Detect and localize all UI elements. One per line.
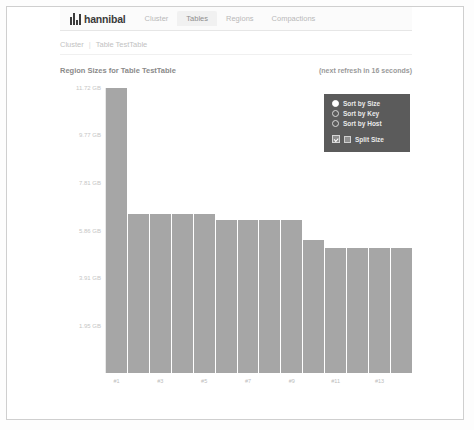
y-axis-tick-label: 7.81 GB <box>79 180 101 186</box>
sort-option-host[interactable]: Sort by Host <box>332 120 403 127</box>
bar[interactable] <box>325 248 346 373</box>
bar[interactable] <box>281 220 302 373</box>
bar[interactable] <box>369 248 390 373</box>
x-axis-tick-label <box>347 374 368 390</box>
chart-header: Region Sizes for Table TestTable (next r… <box>60 66 412 75</box>
nav-items: Cluster Tables Regions Compactions <box>136 7 325 30</box>
bar[interactable] <box>259 220 280 373</box>
bar[interactable] <box>194 214 215 373</box>
x-axis-tick-label <box>303 374 324 390</box>
brand[interactable]: hannibal <box>70 13 126 25</box>
radio-icon-sort-by-host[interactable] <box>332 120 339 127</box>
sort-option-host-label: Sort by Host <box>343 120 382 127</box>
bar[interactable] <box>106 88 127 373</box>
x-axis-tick-label: #3 <box>150 374 171 390</box>
bar[interactable] <box>128 214 149 373</box>
breadcrumb-separator: | <box>89 40 91 49</box>
top-navbar: hannibal Cluster Tables Regions Compacti… <box>60 7 412 31</box>
bar[interactable] <box>172 214 193 373</box>
chart-controls-legend: Sort by Size Sort by Key Sort by Host Sp… <box>324 94 410 152</box>
radio-icon-sort-by-size[interactable] <box>332 100 339 107</box>
nav-item-compactions[interactable]: Compactions <box>263 11 325 27</box>
refresh-countdown: (next refresh in 16 seconds) <box>319 67 412 74</box>
bar[interactable] <box>303 240 324 373</box>
nav-item-tables[interactable]: Tables <box>177 11 217 27</box>
sort-option-size[interactable]: Sort by Size <box>332 100 403 107</box>
split-size-toggle[interactable]: Split Size <box>332 135 403 143</box>
x-axis-tick-label <box>128 374 149 390</box>
region-sizes-chart: 1.95 GB3.91 GB5.86 GB7.81 GB9.77 GB11.72… <box>60 88 412 406</box>
sort-option-key[interactable]: Sort by Key <box>332 110 403 117</box>
bar[interactable] <box>347 248 368 373</box>
bar[interactable] <box>238 220 259 373</box>
y-axis-tick-label: 9.77 GB <box>79 132 101 138</box>
bar[interactable] <box>216 220 237 373</box>
x-axis-tick-label <box>172 374 193 390</box>
breadcrumb: Cluster | Table TestTable <box>60 40 412 55</box>
x-axis-tick-label: #13 <box>369 374 390 390</box>
sort-option-size-label: Sort by Size <box>343 100 380 107</box>
breadcrumb-item-table[interactable]: Table TestTable <box>96 40 148 49</box>
x-axis-tick-label: #5 <box>194 374 215 390</box>
y-axis: 1.95 GB3.91 GB5.86 GB7.81 GB9.77 GB11.72… <box>60 88 105 373</box>
y-axis-tick-label: 3.91 GB <box>79 275 101 281</box>
nav-item-regions[interactable]: Regions <box>217 11 263 27</box>
brand-label: hannibal <box>84 13 126 25</box>
x-axis-tick-label: #9 <box>281 374 302 390</box>
bar[interactable] <box>150 214 171 373</box>
x-axis-tick-label: #11 <box>325 374 346 390</box>
page-title: Region Sizes for Table TestTable <box>60 66 176 75</box>
x-axis: #1#3#5#7#9#11#13 <box>106 374 412 390</box>
radio-icon-sort-by-key[interactable] <box>332 110 339 117</box>
checkbox-icon-split-size[interactable] <box>332 135 340 143</box>
breadcrumb-item-cluster[interactable]: Cluster <box>60 40 84 49</box>
sort-option-key-label: Sort by Key <box>343 110 379 117</box>
x-axis-tick-label <box>259 374 280 390</box>
x-axis-tick-label <box>391 374 412 390</box>
x-axis-tick-label: #7 <box>238 374 259 390</box>
y-axis-tick-label: 11.72 GB <box>76 85 101 91</box>
bar[interactable] <box>391 248 412 373</box>
bar-chart-logo-icon <box>70 13 83 25</box>
x-axis-tick-label <box>216 374 237 390</box>
x-axis-tick-label: #1 <box>106 374 127 390</box>
nav-item-cluster[interactable]: Cluster <box>136 11 178 27</box>
split-size-label: Split Size <box>355 136 384 143</box>
y-axis-tick-label: 1.95 GB <box>79 323 101 329</box>
y-axis-tick-label: 5.86 GB <box>79 228 101 234</box>
screenshot-page: hannibal Cluster Tables Regions Compacti… <box>0 0 474 430</box>
split-size-color-swatch <box>344 136 351 143</box>
